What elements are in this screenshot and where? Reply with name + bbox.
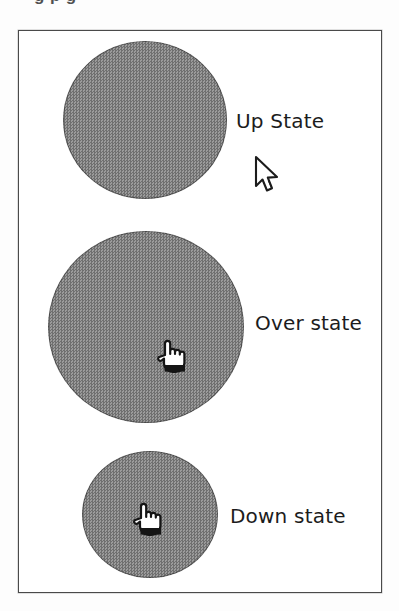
pointing-hand-cursor-icon bbox=[156, 336, 190, 378]
down-state-label: Down state bbox=[230, 504, 346, 528]
cropped-caption-text: g p g bbox=[34, 0, 364, 4]
over-state-button-circle[interactable] bbox=[48, 231, 244, 423]
over-state-label: Over state bbox=[255, 311, 362, 335]
arrow-cursor-icon bbox=[251, 154, 285, 196]
scanned-page: g p g Up State Over state Down state bbox=[0, 0, 399, 611]
up-state-label: Up State bbox=[236, 109, 324, 133]
pointing-hand-cursor-icon bbox=[132, 499, 166, 541]
figure-frame: Up State Over state Down state bbox=[18, 30, 382, 593]
up-state-button-circle[interactable] bbox=[63, 41, 227, 199]
